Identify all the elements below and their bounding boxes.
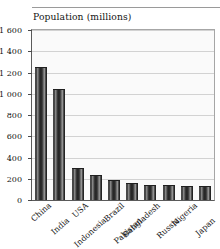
y-axis-label: 200 [7, 175, 22, 184]
y-axis-tick [28, 115, 32, 116]
header-divider [32, 7, 220, 8]
bar [126, 183, 138, 201]
y-axis-tick [28, 136, 32, 137]
y-axis-tick [28, 179, 32, 180]
bar [35, 67, 47, 200]
y-axis-label: 600 [7, 132, 22, 141]
bar [199, 186, 211, 200]
y-axis-label: 1 000 [0, 90, 22, 99]
y-axis-label: 1 600 [0, 26, 22, 35]
y-axis-tick [28, 158, 32, 159]
bar [90, 175, 102, 201]
y-axis-label: 0 [17, 196, 22, 205]
bar [163, 185, 175, 200]
bar [72, 168, 84, 200]
x-axis-label: USA [71, 201, 90, 220]
bar [108, 180, 120, 200]
y-axis-tick [28, 94, 32, 95]
y-axis-label: 1 200 [0, 69, 22, 78]
x-axis-label: Indonesia [73, 216, 108, 249]
x-axis-label: India [50, 216, 71, 237]
y-axis-label: 1 400 [0, 47, 22, 56]
bar [53, 89, 65, 200]
y-axis-label: 400 [7, 154, 22, 163]
y-axis-tick [28, 51, 32, 52]
y-axis-label: 800 [7, 111, 22, 120]
chart-title: Population (millions) [33, 11, 131, 22]
x-axis-label: Japan [194, 216, 217, 238]
bars-layer [32, 30, 214, 200]
y-axis-tick [28, 30, 32, 31]
bar [144, 185, 156, 200]
y-axis-tick [28, 73, 32, 74]
x-axis-label: Brazil [102, 201, 126, 224]
x-axis-label: China [29, 201, 53, 224]
x-axis-labels: ChinaIndiaUSAIndonesiaBrazilPakistanBang… [31, 201, 213, 246]
plot-area: 1 6001 4001 2001 0008006004002000 [31, 29, 215, 201]
bar [181, 186, 193, 200]
